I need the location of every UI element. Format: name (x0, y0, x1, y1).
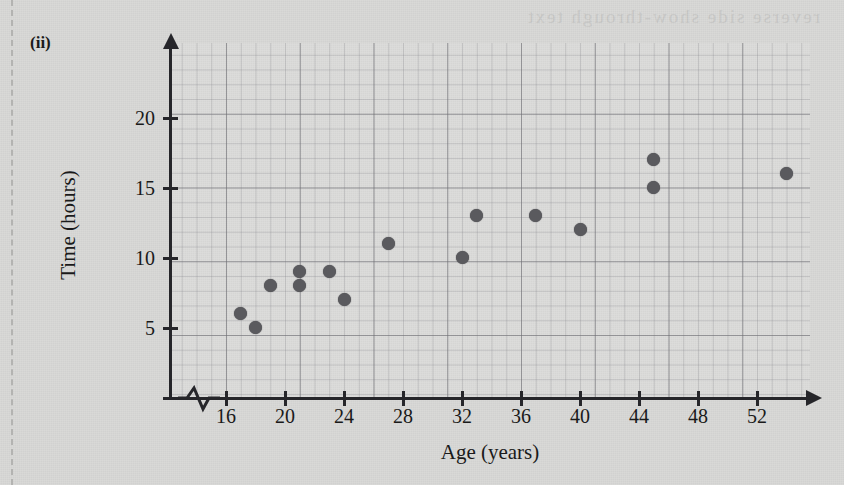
data-point (323, 265, 336, 278)
x-tick-mark (402, 391, 405, 406)
x-tick-label: 48 (688, 405, 708, 428)
x-tick-label: 28 (393, 405, 413, 428)
y-tick-label: 10 (135, 246, 155, 269)
y-tick-mark (163, 117, 178, 120)
y-tick-label: 5 (145, 316, 155, 339)
x-tick-mark (579, 391, 582, 406)
data-point (382, 237, 395, 250)
y-tick-mark (163, 187, 178, 190)
x-tick-mark (520, 391, 523, 406)
x-axis-arrow-icon (806, 390, 822, 406)
data-point (338, 293, 351, 306)
data-point (249, 321, 262, 334)
x-tick-mark (756, 391, 759, 406)
x-tick-mark (284, 391, 287, 406)
y-tick-mark (163, 327, 178, 330)
x-tick-label: 44 (629, 405, 649, 428)
data-point (456, 251, 469, 264)
y-tick-label: 15 (135, 176, 155, 199)
x-tick-label: 16 (216, 405, 236, 428)
y-tick-mark (163, 257, 178, 260)
x-tick-label: 36 (511, 405, 531, 428)
data-point (780, 167, 793, 180)
scatter-plot-figure: reverse side show-through text (ii) 1620… (0, 0, 844, 485)
y-axis-arrow-icon (163, 33, 179, 49)
x-tick-label: 24 (334, 405, 354, 428)
y-tick-label: 20 (135, 106, 155, 129)
x-tick-label: 40 (570, 405, 590, 428)
x-tick-mark (697, 391, 700, 406)
x-tick-mark (461, 391, 464, 406)
data-point (574, 223, 587, 236)
y-axis-title: Time (hours) (56, 170, 81, 279)
x-tick-mark (343, 391, 346, 406)
plot-area: 16202428323640444852 5101520 Age (years)… (0, 0, 844, 485)
data-point (264, 279, 277, 292)
x-tick-mark (225, 391, 228, 406)
x-axis-line (163, 397, 810, 400)
y-axis-line (169, 46, 172, 400)
x-tick-label: 20 (275, 405, 295, 428)
x-tick-label: 52 (747, 405, 767, 428)
graph-paper-grid (170, 43, 810, 399)
x-axis-title: Age (years) (441, 440, 540, 465)
axis-break-zigzag-icon (178, 385, 220, 413)
x-tick-mark (638, 391, 641, 406)
x-tick-label: 32 (452, 405, 472, 428)
